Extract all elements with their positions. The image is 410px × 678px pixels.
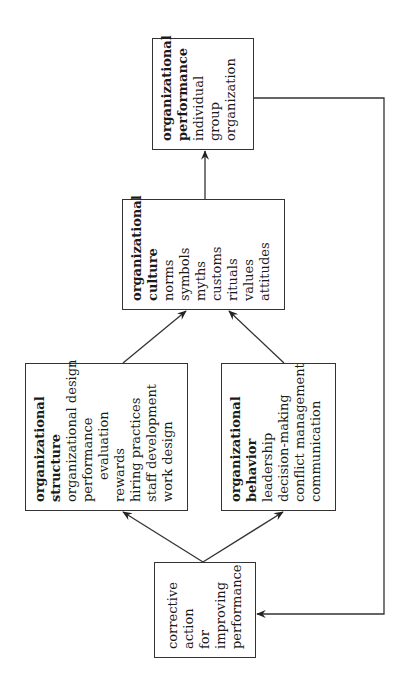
culture-item: customs (209, 200, 225, 301)
culture-item: values (241, 200, 257, 301)
structure-item: staff development (144, 364, 160, 502)
node-organizational-behavior: organizational behavior leadership decis… (221, 363, 336, 511)
node-corrective-action: corrective action for improving performa… (154, 562, 256, 658)
node-organizational-performance: organizational performance individual gr… (152, 38, 254, 150)
arrow-corrective-to-behavior (203, 512, 283, 562)
corrective-line: for (197, 563, 213, 649)
culture-item: rituals (225, 200, 241, 301)
culture-title-2: culture (145, 200, 161, 301)
performance-item: group (207, 39, 223, 141)
structure-item: performance (80, 364, 96, 502)
behavior-item: decision-making (276, 364, 292, 502)
arrow-corrective-to-structure (123, 512, 203, 562)
performance-item: organization (223, 39, 239, 141)
arrow-behavior-to-culture (229, 311, 284, 363)
culture-item: symbols (177, 200, 193, 301)
node-organizational-structure: organizational structure organizational … (25, 363, 188, 511)
structure-title-2: structure (48, 364, 64, 502)
arrow-feedback-performance-to-corrective (254, 98, 384, 614)
structure-item: hiring practices (128, 364, 144, 502)
behavior-title-1: organizational (228, 364, 244, 502)
behavior-item: leadership (260, 364, 276, 502)
behavior-title-2: behavior (244, 364, 260, 502)
performance-title-2: performance (175, 39, 191, 141)
corrective-line: corrective (165, 563, 181, 649)
structure-title-1: organizational (32, 364, 48, 502)
structure-item: work design (160, 364, 176, 502)
structure-item: rewards (112, 364, 128, 502)
performance-title-1: organizational (159, 39, 175, 141)
behavior-item: conflict management (292, 364, 308, 502)
performance-item: individual (191, 39, 207, 141)
corrective-line: action (181, 563, 197, 649)
corrective-line: performance (229, 563, 245, 649)
culture-item: norms (161, 200, 177, 301)
behavior-item: communication (308, 364, 324, 502)
node-organizational-culture: organizational culture norms symbols myt… (122, 199, 285, 310)
arrow-structure-to-culture (123, 311, 186, 363)
culture-item: attitudes (257, 200, 273, 301)
structure-item: evaluation (96, 364, 112, 502)
culture-item: myths (193, 200, 209, 301)
structure-item: organizational design (64, 364, 80, 502)
culture-title-1: organizational (129, 200, 145, 301)
corrective-line: improving (213, 563, 229, 649)
